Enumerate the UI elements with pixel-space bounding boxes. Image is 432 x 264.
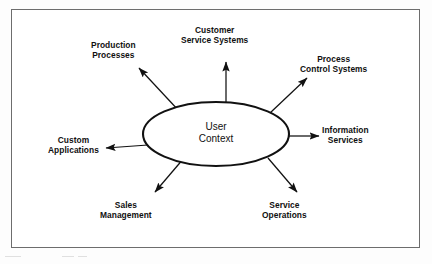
node-label-line1: Service xyxy=(262,200,307,210)
node-label-line2: Management xyxy=(100,210,152,220)
node-label-service-operations: Service Operations xyxy=(262,200,307,221)
node-label-line2: Processes xyxy=(91,50,136,60)
arrow-custom-applications xyxy=(106,145,148,148)
user-context-label: User Context xyxy=(156,121,276,145)
node-label-sales-management: Sales Management xyxy=(100,200,152,221)
node-label-process-control-systems: Process Control Systems xyxy=(300,54,367,75)
node-label-line1: Process xyxy=(300,54,367,64)
node-label-line2: Applications xyxy=(48,145,99,155)
arrow-sales-management xyxy=(155,158,184,192)
node-label-line1: Production xyxy=(91,40,136,50)
node-label-customer-service-systems: Customer Service Systems xyxy=(181,25,248,46)
diagram-canvas: User Context Production Processes Custom… xyxy=(0,0,432,264)
node-label-line2: Operations xyxy=(262,210,307,220)
arrow-production-processes xyxy=(139,68,180,112)
user-context-label-line2: Context xyxy=(156,133,276,145)
node-label-line1: Customer xyxy=(181,25,248,35)
node-label-production-processes: Production Processes xyxy=(91,40,136,61)
node-label-line1: Custom xyxy=(48,135,99,145)
node-label-line1: Sales xyxy=(100,200,152,210)
arrow-service-operations xyxy=(268,158,297,192)
scan-artifact-left xyxy=(5,256,21,257)
user-context-label-line1: User xyxy=(156,121,276,133)
scan-artifact-mid-right xyxy=(78,256,87,257)
node-label-line2: Service Systems xyxy=(181,35,248,45)
node-label-line2: Control Systems xyxy=(300,64,367,74)
node-label-information-services: Information Services xyxy=(322,125,369,146)
node-label-custom-applications: Custom Applications xyxy=(48,135,99,156)
node-label-line1: Information xyxy=(322,125,369,135)
scan-artifact-mid xyxy=(62,256,74,257)
node-label-line2: Services xyxy=(322,135,369,145)
arrow-process-control-systems xyxy=(270,78,307,113)
